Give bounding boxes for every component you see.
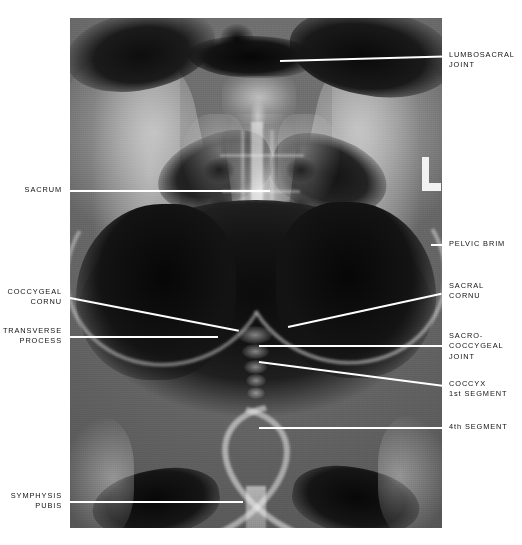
radiograph-figure: LUMBOSACRAL JOINT PELVIC BRIM SACRAL COR… — [0, 0, 522, 545]
label-fourth-segment: 4th SEGMENT — [449, 422, 508, 432]
leader-line-transverse-process — [70, 336, 218, 338]
leader-line-sacro-coccygeal-joint — [259, 345, 444, 347]
label-coccyx-1st-segment: COCCYX 1st SEGMENT — [449, 379, 507, 400]
label-pelvic-brim: PELVIC BRIM — [449, 239, 505, 249]
leader-line-fourth-segment — [259, 427, 444, 429]
side-marker-left — [422, 157, 441, 191]
label-sacrum: SACRUM — [0, 185, 62, 195]
label-coccygeal-cornu: COCCYGEAL CORNU — [0, 287, 62, 308]
label-lumbosacral-joint: LUMBOSACRAL JOINT — [449, 50, 515, 71]
leader-line-pelvic-brim — [431, 244, 444, 246]
side-marker-foot — [422, 183, 441, 191]
label-sacral-cornu: SACRAL CORNU — [449, 281, 484, 302]
film-grain — [70, 18, 442, 528]
leader-line-sacrum — [70, 190, 270, 192]
leader-line-symphysis-pubis — [70, 501, 243, 503]
label-symphysis-pubis: SYMPHYSIS PUBIS — [0, 491, 62, 512]
label-transverse-process: TRANSVERSE PROCESS — [0, 326, 62, 347]
label-sacro-coccygeal-joint: SACRO- COCCYGEAL JOINT — [449, 331, 504, 362]
xray-image — [70, 18, 442, 528]
